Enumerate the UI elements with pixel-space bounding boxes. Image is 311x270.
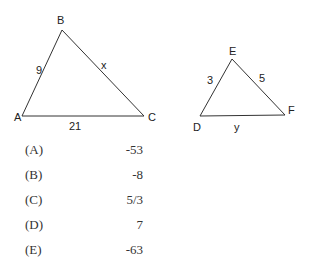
choice-value: 7: [63, 217, 143, 233]
side-bc-label: x: [101, 59, 107, 71]
triangle-abc: A B C 9 x 21: [14, 14, 156, 132]
side-ac-label: 21: [69, 120, 81, 132]
choice-value: 5/3: [63, 192, 143, 208]
vertex-d-label: D: [193, 121, 201, 133]
side-df-label: y: [234, 121, 240, 133]
choice-value: -63: [63, 242, 143, 258]
vertex-b-label: B: [57, 14, 64, 26]
choice-letter: (E): [25, 242, 42, 258]
triangle-def: D E F 3 5 y: [193, 45, 295, 133]
choice-value: -53: [63, 142, 143, 158]
choice-value: -8: [63, 167, 143, 183]
vertex-f-label: F: [288, 104, 295, 116]
choice-letter: (A): [25, 142, 43, 158]
triangle-def-shape: [200, 59, 285, 116]
vertex-c-label: C: [148, 111, 156, 123]
side-ef-label: 5: [259, 72, 265, 84]
choice-letter: (C): [25, 192, 42, 208]
triangles-figure: A B C 9 x 21 D E F 3 5 y: [0, 0, 311, 140]
choice-letter: (D): [25, 217, 43, 233]
vertex-a-label: A: [14, 111, 22, 123]
side-de-label: 3: [207, 74, 213, 86]
choice-letter: (B): [25, 167, 42, 183]
side-ab-label: 9: [36, 64, 42, 76]
vertex-e-label: E: [229, 45, 236, 57]
